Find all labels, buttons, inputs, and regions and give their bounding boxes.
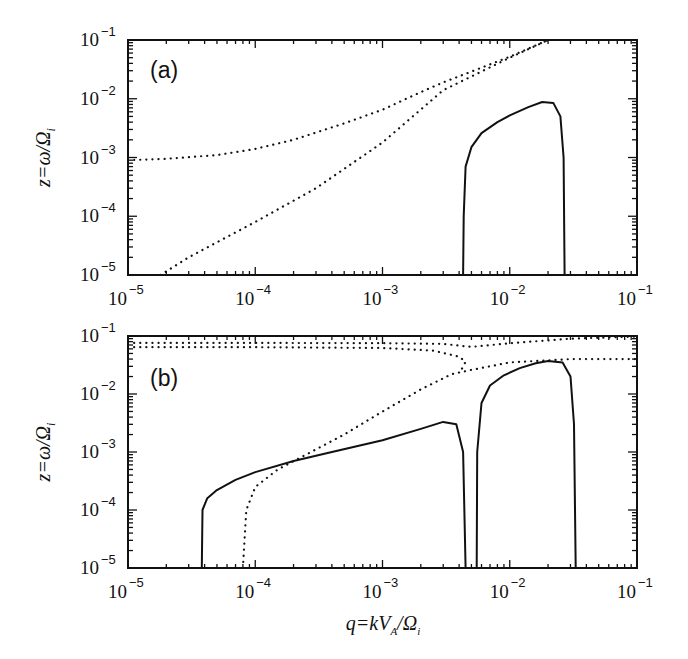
- x-tick-label: 10: [235, 581, 254, 602]
- growth-rate-lobe-1-curve: [202, 422, 466, 568]
- x-tick-label: 10: [235, 288, 254, 309]
- y-tick-label: 10: [80, 29, 99, 50]
- y-tick-label: 10: [80, 383, 99, 404]
- x-tick-exponent: −2: [511, 282, 526, 297]
- x-tick-label: 10: [490, 288, 509, 309]
- axes-frame: [128, 40, 637, 275]
- x-tick-label: 10: [363, 581, 382, 602]
- x-tick-exponent: −3: [384, 282, 399, 297]
- dotted-lower-branch-curve: [161, 40, 549, 275]
- y-tick-label: 10: [80, 88, 99, 109]
- y-tick-label: 10: [80, 147, 99, 168]
- growth-rate-lobe-2-curve: [477, 361, 576, 568]
- y-tick-exponent: −4: [101, 200, 116, 215]
- y-axis-title: z=ω/Ωi: [32, 423, 58, 483]
- x-tick-exponent: −1: [638, 282, 653, 297]
- panel-b: 10−110−210−310−410−510−510−410−310−210−1…: [32, 320, 653, 602]
- x-tick-exponent: −5: [129, 575, 144, 590]
- y-tick-label: 10: [80, 205, 99, 226]
- x-tick-label: 10: [617, 581, 636, 602]
- dotted-second-branch-curve: [128, 347, 466, 369]
- x-tick-label: 10: [363, 288, 382, 309]
- y-tick-exponent: −5: [101, 259, 116, 274]
- x-tick-exponent: −4: [256, 575, 271, 590]
- x-tick-labels: 10−510−410−310−210−1: [108, 282, 653, 309]
- y-tick-label: 10: [80, 441, 99, 462]
- axis-ticks: [128, 336, 637, 568]
- x-tick-label: 10: [617, 288, 636, 309]
- x-tick-exponent: −2: [511, 575, 526, 590]
- figure: 10−110−210−310−410−510−510−410−310−210−1…: [0, 0, 688, 659]
- y-tick-exponent: −1: [101, 320, 116, 335]
- x-tick-exponent: −1: [638, 575, 653, 590]
- x-tick-exponent: −3: [384, 575, 399, 590]
- x-tick-label: 10: [108, 581, 127, 602]
- plot-area: [128, 40, 565, 275]
- y-tick-exponent: −3: [101, 436, 116, 451]
- panel-label: (b): [150, 365, 178, 391]
- y-tick-labels: 10−110−210−310−410−5: [80, 320, 116, 578]
- panel-label: (a): [150, 57, 178, 83]
- y-tick-exponent: −3: [101, 142, 116, 157]
- y-tick-label: 10: [80, 557, 99, 578]
- x-tick-label: 10: [490, 581, 509, 602]
- y-tick-exponent: −5: [101, 552, 116, 567]
- y-tick-label: 10: [80, 264, 99, 285]
- dotted-upper-branch-curve: [128, 40, 548, 160]
- y-tick-exponent: −1: [101, 24, 116, 39]
- panel-a: 10−110−210−310−410−510−510−410−310−210−1…: [32, 24, 653, 309]
- y-tick-exponent: −2: [101, 83, 116, 98]
- y-tick-exponent: −4: [101, 494, 116, 509]
- growth-rate-lobe-curve: [463, 102, 564, 275]
- x-axis-title: q=kVA/Ωi: [346, 612, 420, 637]
- y-tick-label: 10: [80, 499, 99, 520]
- axes-frame: [128, 336, 637, 568]
- dotted-rising-branch-curve: [243, 359, 637, 568]
- x-tick-label: 10: [108, 288, 127, 309]
- x-tick-labels: 10−510−410−310−210−1: [108, 575, 653, 602]
- x-tick-exponent: −4: [256, 282, 271, 297]
- y-tick-labels: 10−110−210−310−410−5: [80, 24, 116, 285]
- axis-ticks: [128, 40, 637, 275]
- y-axis-title: z=ω/Ωi: [32, 128, 58, 188]
- plot-area: [128, 337, 637, 569]
- y-tick-exponent: −2: [101, 378, 116, 393]
- x-axis-title-text: q=kVA/Ωi: [346, 612, 420, 637]
- x-tick-exponent: −5: [129, 282, 144, 297]
- y-tick-label: 10: [80, 325, 99, 346]
